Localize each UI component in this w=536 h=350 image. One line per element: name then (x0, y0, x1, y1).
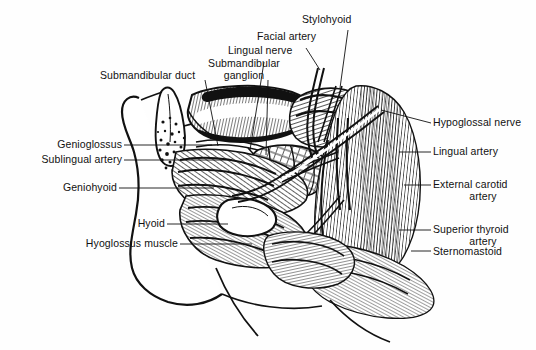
label-submandibular-ganglion-line1: Submandibular (196, 58, 292, 70)
label-external-carotid-artery: External carotid artery (433, 179, 533, 202)
label-external-carotid-line1: External carotid (433, 179, 533, 191)
label-superior-thyroid-line1: Superior thyroid (433, 224, 533, 236)
label-geniohyoid: Geniohyoid (0, 182, 117, 194)
label-submandibular-ganglion-line2: ganglion (196, 70, 292, 82)
label-hyoglossus-muscle: Hyoglossus muscle (0, 238, 178, 250)
label-lingual-nerve: Lingual nerve (228, 45, 292, 57)
label-stylohyoid: Stylohyoid (302, 14, 351, 26)
label-superior-thyroid-artery: Superior thyroid artery (433, 224, 533, 247)
label-sternomastoid: Sternomastoid (433, 246, 502, 258)
anatomy-figure-page: Submandibular duct Submandibular ganglio… (0, 0, 536, 350)
label-facial-artery: Facial artery (257, 31, 316, 43)
label-sublingual-artery: Sublingual artery (0, 154, 122, 166)
label-submandibular-ganglion: Submandibular ganglion (196, 58, 292, 81)
label-hyoid: Hyoid (0, 218, 165, 230)
label-genioglossus: Genioglossus (0, 139, 122, 151)
label-hypoglossal-nerve: Hypoglossal nerve (433, 117, 521, 129)
label-external-carotid-line2: artery (433, 191, 533, 203)
label-lingual-artery: Lingual artery (433, 146, 498, 158)
label-submandibular-duct: Submandibular duct (100, 70, 195, 82)
